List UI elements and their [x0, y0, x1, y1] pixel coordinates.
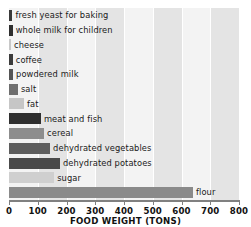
bar-row: dehydrated vegetables — [9, 141, 152, 156]
axis-tick — [182, 200, 183, 205]
bar — [9, 172, 54, 183]
bar-label: dehydrated potatoes — [60, 159, 152, 167]
plot-area: fresh yeast for bakingwhole milk for chi… — [9, 8, 239, 200]
bar-row: whole milk for children — [9, 23, 113, 38]
bar-row: cheese — [9, 38, 44, 53]
bar-label: fat — [24, 100, 39, 108]
axis-tick-label: 700 — [201, 206, 220, 216]
bar-label: fresh yeast for baking — [12, 11, 108, 19]
bar — [9, 158, 60, 169]
grid-band — [153, 8, 182, 200]
bar-label: coffee — [13, 56, 42, 64]
bar-label: powdered milk — [13, 70, 79, 78]
bar-label: meat and fish — [41, 115, 103, 123]
grid-line — [210, 8, 211, 200]
axis-tick — [210, 200, 211, 205]
grid-line — [124, 8, 125, 200]
bar-row: dehydrated potatoes — [9, 156, 152, 171]
axis-tick — [95, 200, 96, 205]
axis-tick-label: 300 — [86, 206, 105, 216]
food-weight-bar-chart: fresh yeast for bakingwhole milk for chi… — [0, 0, 251, 227]
bar-label: flour — [193, 188, 215, 196]
axis-tick-label: 100 — [28, 206, 47, 216]
bar-row: flour — [9, 185, 215, 200]
axis-tick — [153, 200, 154, 205]
bar-row: cereal — [9, 126, 73, 141]
axis-tick-label: 600 — [172, 206, 191, 216]
bar-label: cereal — [44, 129, 73, 137]
axis-tick-label: 500 — [143, 206, 162, 216]
grid-band — [210, 8, 239, 200]
bar-row: coffee — [9, 52, 42, 67]
x-axis-title: FOOD WEIGHT (TONS) — [0, 216, 251, 226]
bar-row: sugar — [9, 170, 81, 185]
bar-row: powdered milk — [9, 67, 79, 82]
bar-label: salt — [18, 85, 36, 93]
grid-line — [182, 8, 183, 200]
bar-row: salt — [9, 82, 36, 97]
bar-label: sugar — [54, 174, 81, 182]
axis-tick-label: 400 — [115, 206, 134, 216]
bar — [9, 98, 24, 109]
bar-row: meat and fish — [9, 111, 102, 126]
axis-tick-label: 0 — [6, 206, 12, 216]
axis-tick-label: 800 — [230, 206, 249, 216]
bar — [9, 84, 18, 95]
axis-tick — [38, 200, 39, 205]
axis-tick — [9, 200, 10, 205]
bar-label: whole milk for children — [13, 26, 113, 34]
bar-row: fresh yeast for baking — [9, 8, 108, 23]
bar — [9, 187, 193, 198]
bar — [9, 128, 44, 139]
bar-label: dehydrated vegetables — [50, 144, 151, 152]
bar-label: cheese — [11, 41, 44, 49]
axis-tick — [239, 200, 240, 205]
bar-row: fat — [9, 97, 39, 112]
bar — [9, 113, 41, 124]
axis-tick-label: 200 — [57, 206, 76, 216]
grid-line — [153, 8, 154, 200]
axis-tick — [124, 200, 125, 205]
bar — [9, 143, 50, 154]
axis-tick — [67, 200, 68, 205]
